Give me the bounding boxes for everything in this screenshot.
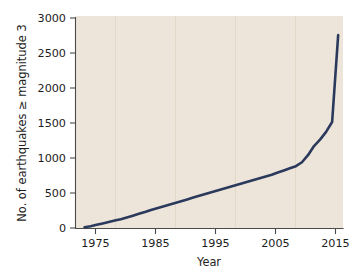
y-tick-label-1000: 1000 (38, 152, 66, 165)
x-tick-label-2005: 2005 (261, 237, 289, 250)
x-tick-label-2015: 2015 (321, 237, 349, 250)
x-axis-ticks (96, 229, 336, 235)
y-axis-ticks (70, 18, 76, 228)
y-tick-label-500: 500 (45, 187, 66, 200)
chart-figure: 3000 2500 2000 1500 1000 500 0 1975 1985… (0, 0, 363, 276)
y-tick-label-0: 0 (59, 222, 66, 235)
x-tick-label-1985: 1985 (141, 237, 169, 250)
y-axis-title: No. of earthquakes ≥ magnitude 3 (15, 24, 29, 221)
x-tick-label-1995: 1995 (201, 237, 229, 250)
x-axis-title: Year (196, 255, 221, 269)
y-tick-label-1500: 1500 (38, 117, 66, 130)
y-tick-label-2000: 2000 (38, 82, 66, 95)
earthquake-cumulative-line-chart: 3000 2500 2000 1500 1000 500 0 1975 1985… (0, 0, 363, 276)
y-tick-label-2500: 2500 (38, 47, 66, 60)
y-tick-label-3000: 3000 (38, 12, 66, 25)
x-tick-label-1975: 1975 (81, 237, 109, 250)
plot-area-background (76, 16, 343, 228)
